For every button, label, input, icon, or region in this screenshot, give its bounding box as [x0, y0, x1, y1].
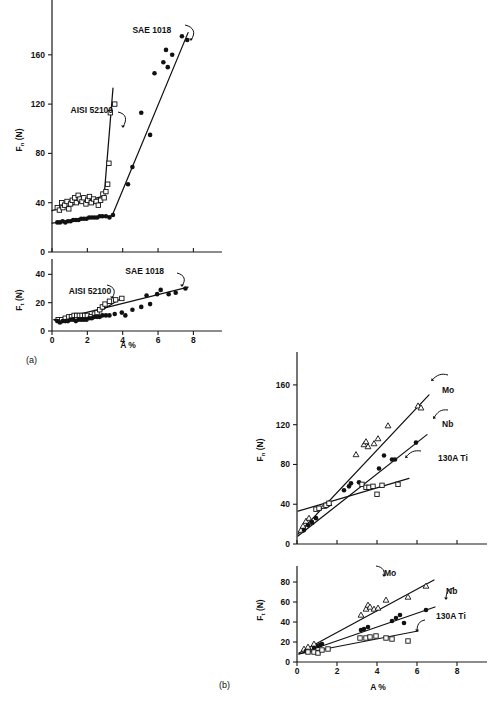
data-point-mo-b-upper	[385, 423, 391, 428]
data-point-aisi-52100-a-upper	[96, 203, 100, 207]
data-point-sae-1018-a-upper	[130, 165, 135, 170]
data-point-nb-b-lower	[320, 642, 325, 647]
data-point-nb-b-upper	[302, 528, 307, 533]
data-point-aisi-52100-a-lower	[107, 299, 111, 303]
data-point-sae-1018-a-upper	[164, 48, 169, 53]
arrowhead-nb-b-lower	[444, 597, 448, 600]
chart-b-upper: 04080120160MoNb130A Ti	[276, 352, 487, 549]
y-tick-label-b-upper-0: 0	[285, 539, 290, 549]
data-point-sae-1018-a-lower	[158, 288, 163, 293]
plot-render-layer: 04080120160SAE 1018AISI 521000246802040S…	[14, 0, 487, 692]
data-point-aisi-52100-a-lower	[120, 296, 124, 300]
y-tick-label-a-upper-4: 160	[31, 50, 45, 60]
arrowhead-sae1018-a-lower	[180, 284, 184, 287]
data-point-130a-ti-b-lower	[320, 648, 324, 652]
arrowhead-sae1018-a-upper	[189, 38, 193, 41]
trendline-mo-b-lower	[299, 580, 434, 653]
data-point-sae-1018-a-upper	[152, 71, 157, 76]
data-point-aisi-52100-a-lower	[103, 302, 107, 306]
x-tick-label-a-lower-4: 8	[191, 335, 196, 345]
data-point-sae-1018-a-upper	[180, 34, 185, 39]
y-tick-label-b-lower-4: 80	[281, 577, 291, 587]
panel-a-label: (a)	[26, 349, 37, 367]
y-tick-label-a-upper-2: 80	[36, 148, 46, 158]
data-point-sae-1018-a-lower	[144, 293, 149, 298]
chart-a-lower: 0246802040SAE 1018AISI 52100	[36, 259, 222, 345]
data-point-130a-ti-b-upper	[371, 484, 375, 488]
series-annotation-b-upper-1: Nb	[442, 419, 453, 429]
figure-root: 04080120160SAE 1018AISI 521000246802040S…	[0, 0, 491, 701]
data-point-130a-ti-b-lower	[306, 650, 310, 654]
data-point-sae-1018-a-upper	[185, 38, 190, 43]
data-point-130a-ti-b-lower	[358, 636, 362, 640]
y-tick-label-a-upper-1: 40	[36, 198, 46, 208]
y-tick-label-b-upper-2: 80	[281, 459, 291, 469]
data-point-sae-1018-a-upper	[165, 65, 170, 70]
y-axis-title-b-lower: Ft (N)	[255, 599, 266, 621]
data-point-130a-ti-b-lower	[374, 634, 378, 638]
data-point-nb-b-lower	[366, 625, 371, 630]
data-point-130a-ti-b-lower	[326, 647, 330, 651]
y-tick-label-b-upper-1: 40	[281, 499, 291, 509]
y-axis-title-a-lower: Ft (N)	[14, 289, 25, 311]
data-point-sae-1018-a-lower	[155, 292, 160, 297]
y-tick-label-b-lower-0: 0	[285, 657, 290, 667]
data-point-mo-b-lower	[375, 605, 381, 610]
data-point-130a-ti-b-upper	[380, 483, 384, 487]
x-tick-label-a-lower-0: 0	[50, 335, 55, 345]
data-point-sae-1018-a-lower	[166, 292, 171, 297]
data-point-sae-1018-a-upper	[148, 133, 153, 138]
y-tick-label-a-upper-0: 0	[40, 247, 45, 257]
data-point-nb-b-upper	[414, 440, 419, 445]
x-tick-label-a-lower-3: 6	[156, 335, 161, 345]
y-tick-label-a-lower-2: 40	[36, 269, 46, 279]
arrowhead-aisi52100-a-upper	[121, 125, 125, 128]
data-point-mo-b-lower	[358, 612, 364, 617]
data-point-sae-1018-a-lower	[107, 313, 112, 318]
data-point-sae-1018-a-lower	[130, 307, 135, 312]
data-point-130a-ti-b-upper	[396, 482, 400, 486]
data-point-nb-b-upper	[382, 453, 387, 458]
data-point-nb-b-upper	[349, 481, 354, 486]
leader-130ati-b-lower	[417, 620, 425, 631]
data-point-nb-b-upper	[310, 520, 315, 525]
data-point-nb-b-upper	[306, 523, 311, 528]
data-point-aisi-52100-a-upper	[102, 196, 106, 200]
data-point-aisi-52100-a-upper	[107, 161, 111, 165]
data-point-nb-b-upper	[377, 466, 382, 471]
data-point-sae-1018-a-lower	[173, 290, 178, 295]
x-tick-label-b-lower-3: 6	[415, 666, 420, 676]
y-tick-label-a-upper-3: 120	[31, 99, 45, 109]
series-annotation-a-upper-1: AISI 52100	[71, 105, 114, 115]
y-axis-title-b-upper: Fn (N)	[255, 438, 266, 461]
data-point-nb-b-upper	[342, 488, 347, 493]
series-annotation-a-lower-1: AISI 52100	[69, 286, 112, 296]
x-tick-label-b-lower-2: 4	[375, 666, 380, 676]
y-tick-label-a-lower-1: 20	[36, 298, 46, 308]
data-point-nb-b-lower	[402, 621, 407, 626]
data-point-aisi-52100-a-upper	[104, 189, 108, 193]
y-tick-label-b-lower-2: 40	[281, 617, 291, 627]
x-tick-label-a-lower-1: 2	[85, 335, 90, 345]
data-point-mo-b-upper	[371, 441, 377, 446]
chart-b-lower: 02468020406080MoNb130A Ti	[281, 566, 487, 676]
scientific-figure: 04080120160SAE 1018AISI 521000246802040S…	[0, 0, 491, 701]
x-tick-label-b-lower-0: 0	[295, 666, 300, 676]
data-point-130a-ti-b-upper	[327, 501, 331, 505]
data-point-sae-1018-a-upper	[170, 53, 175, 58]
chart-a-upper: 04080120160SAE 1018AISI 52100	[31, 0, 222, 257]
leader-mo-b-upper	[432, 374, 448, 380]
trendline-mo-b-upper	[298, 395, 429, 534]
data-point-sae-1018-a-upper	[161, 60, 166, 65]
data-point-130a-ti-b-lower	[390, 637, 394, 641]
data-point-mo-b-upper	[375, 436, 381, 441]
data-point-mo-b-upper	[353, 452, 359, 457]
data-point-aisi-52100-a-upper	[113, 102, 117, 106]
data-point-sae-1018-a-lower	[123, 313, 128, 318]
panel-b-label: (b)	[219, 674, 230, 692]
data-point-130a-ti-b-upper	[375, 492, 379, 496]
data-point-nb-b-upper	[314, 516, 319, 521]
y-tick-label-b-lower-3: 60	[281, 597, 291, 607]
data-point-sae-1018-a-lower	[183, 286, 188, 291]
x-axis-title-b: A %	[370, 682, 386, 692]
